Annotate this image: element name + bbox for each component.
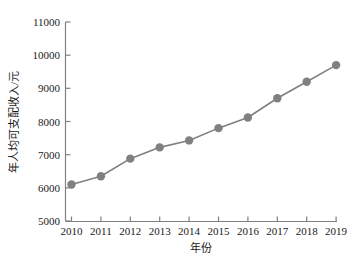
data-point (303, 78, 311, 86)
data-point (244, 113, 252, 121)
y-axis-title: 年人均可支配收入/元 (9, 71, 20, 173)
x-tick-label-2013: 2013 (149, 226, 171, 237)
x-tick-label-2014: 2014 (178, 226, 200, 237)
data-point (67, 180, 75, 188)
x-tick-label-2012: 2012 (119, 226, 141, 237)
y-tick-label-6000: 6000 (12, 182, 60, 193)
data-point (156, 143, 164, 151)
data-point (214, 124, 222, 132)
data-point (332, 61, 340, 69)
x-axis-title: 年份 (190, 243, 212, 254)
data-series-markers (67, 61, 340, 189)
data-point (273, 94, 281, 102)
x-tick-label-2016: 2016 (237, 226, 259, 237)
x-tick-label-2018: 2018 (296, 226, 318, 237)
x-tick-label-2019: 2019 (325, 226, 347, 237)
y-axis-ticks (66, 22, 71, 221)
data-point (185, 136, 193, 144)
chart-axes (66, 22, 338, 222)
x-tick-label-2015: 2015 (208, 226, 230, 237)
data-point (126, 154, 134, 162)
x-tick-label-2011: 2011 (90, 226, 112, 237)
x-tick-label-2010: 2010 (61, 226, 83, 237)
data-series-line (72, 65, 337, 184)
x-axis-ticks (72, 217, 337, 222)
y-tick-label-5000: 5000 (12, 216, 60, 227)
y-tick-label-10000: 10000 (12, 50, 60, 61)
line-chart: 11000 10000 9000 8000 7000 6000 5000 201… (0, 0, 362, 270)
x-tick-label-2017: 2017 (266, 226, 288, 237)
y-tick-label-11000: 11000 (12, 17, 60, 28)
data-point (97, 172, 105, 180)
